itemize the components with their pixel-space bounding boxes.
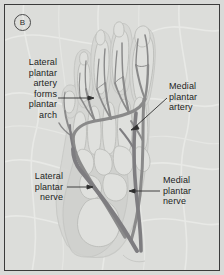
leader-medial-plantar-nerve: [129, 189, 160, 193]
leader-lateral-plantar-nerve: [67, 185, 93, 189]
panel-letter-badge: B: [14, 14, 31, 31]
label-medial-plantar-artery: Medial plantar artery: [169, 81, 217, 113]
label-lateral-plantar-artery: Lateral plantar artery forms plantar arc…: [9, 57, 57, 121]
leader-lateral-plantar-artery: [58, 96, 94, 100]
label-medial-plantar-nerve: Medial plantar nerve: [163, 175, 213, 207]
leader-lines-overlay: [5, 5, 219, 270]
leader-medial-plantar-artery: [131, 98, 167, 130]
illustration-plate: Lateral plantar artery forms plantar arc…: [4, 4, 220, 271]
anatomy-figure-panel: Lateral plantar artery forms plantar arc…: [0, 0, 224, 275]
label-lateral-plantar-nerve: Lateral plantar nerve: [15, 171, 63, 203]
